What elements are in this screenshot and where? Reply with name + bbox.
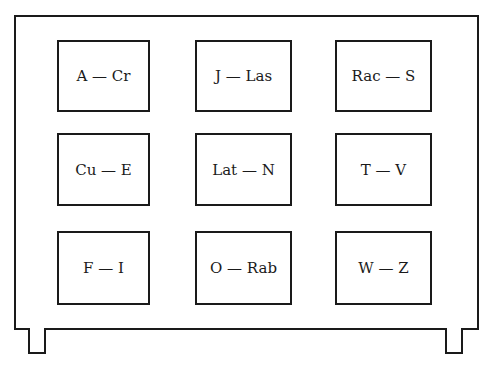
drawer-label: F — I <box>83 259 124 277</box>
cabinet-leg-right <box>445 328 463 354</box>
drawer-label: A — Cr <box>76 67 130 85</box>
drawer-label: O — Rab <box>210 259 277 277</box>
drawer-label: Rac — S <box>352 67 416 85</box>
drawer-label: Lat — N <box>212 161 275 179</box>
drawer-label: J — Las <box>215 67 272 85</box>
drawer-label: W — Z <box>358 259 408 277</box>
drawer-lat-n: Lat — N <box>195 133 292 206</box>
drawer-label: T — V <box>361 161 406 179</box>
drawer-cu-e: Cu — E <box>57 133 150 206</box>
drawer-w-z: W — Z <box>335 231 432 305</box>
cabinet-leg-left <box>28 328 46 354</box>
drawer-f-i: F — I <box>57 231 150 305</box>
drawer-label: Cu — E <box>75 161 132 179</box>
drawer-o-rab: O — Rab <box>195 231 292 305</box>
drawer-rac-s: Rac — S <box>335 40 432 112</box>
drawer-a-cr: A — Cr <box>57 40 150 112</box>
drawer-t-v: T — V <box>335 133 432 206</box>
drawer-j-las: J — Las <box>195 40 292 112</box>
